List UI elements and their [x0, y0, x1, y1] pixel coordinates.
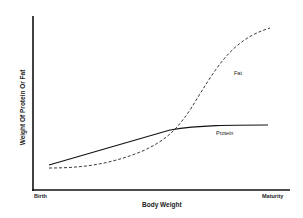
fat-line — [49, 28, 270, 168]
x-tick-birth: Birth — [34, 193, 47, 199]
x-tick-maturity: Maturity — [262, 193, 283, 199]
fat-label: Fat — [234, 70, 242, 76]
x-axis-label: Body Weight — [142, 201, 182, 208]
chart-plot — [0, 0, 303, 218]
protein-line — [49, 125, 268, 165]
y-axis-label: Weight Of Protein Or Fat — [19, 48, 26, 168]
protein-label: Protein — [216, 130, 233, 136]
